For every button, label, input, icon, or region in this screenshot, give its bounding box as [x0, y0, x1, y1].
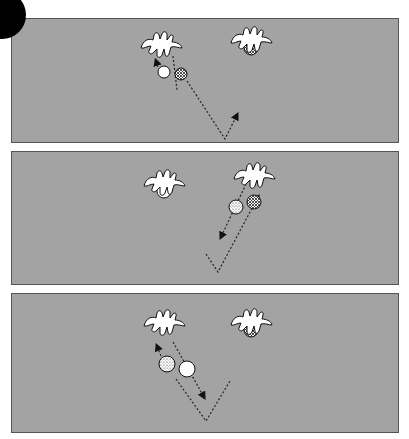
right-hand-icon: [231, 309, 272, 337]
dotted-ball-icon: [159, 356, 175, 372]
hatched-ball-icon: [247, 195, 261, 209]
left-hand-icon: [144, 170, 185, 198]
left-hand-icon: [141, 32, 182, 58]
trajectory-path: [156, 61, 158, 67]
panel-1: [11, 18, 399, 143]
trajectory-path: [157, 346, 161, 356]
right-hand-icon: [234, 163, 275, 189]
white-ball-icon: [158, 66, 170, 78]
trajectory-path: [187, 81, 237, 139]
panel-2: [11, 151, 399, 285]
white-ball-icon: [179, 361, 195, 377]
dotted-ball-icon: [229, 200, 243, 214]
left-hand-icon: [144, 310, 185, 336]
right-hand-icon: [231, 27, 272, 55]
panel-3: [11, 293, 399, 433]
hatched-ball-icon: [175, 68, 187, 80]
trajectory-path: [176, 379, 230, 421]
